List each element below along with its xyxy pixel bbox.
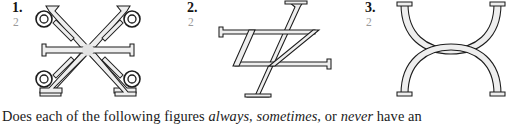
figure-item-2: 2. 2 <box>180 0 345 100</box>
figure-3-drawing <box>393 0 509 98</box>
question-prompt: Does each of the following figures alway… <box>2 107 507 126</box>
question-part-4: have an <box>373 108 422 124</box>
question-part-1: always, sometimes, <box>209 108 322 124</box>
worksheet-page: 1. 2 <box>0 0 513 131</box>
figure-1-ring-bottom-right <box>124 71 140 87</box>
figure-1-ring-top-left <box>36 11 52 27</box>
question-part-3: never <box>341 108 373 124</box>
figure-1-drawing <box>28 0 148 98</box>
question-part-2: or <box>321 108 341 124</box>
question-part-0: Does each of the following figures <box>2 108 209 124</box>
figure-item-3: 3. 2 <box>355 0 513 100</box>
figure-1-ring-top-right <box>124 11 140 27</box>
figure-item-1: 1. 2 <box>0 0 170 100</box>
figure-2-drawing <box>213 0 338 98</box>
figure-1-ring-bottom-left <box>36 71 52 87</box>
